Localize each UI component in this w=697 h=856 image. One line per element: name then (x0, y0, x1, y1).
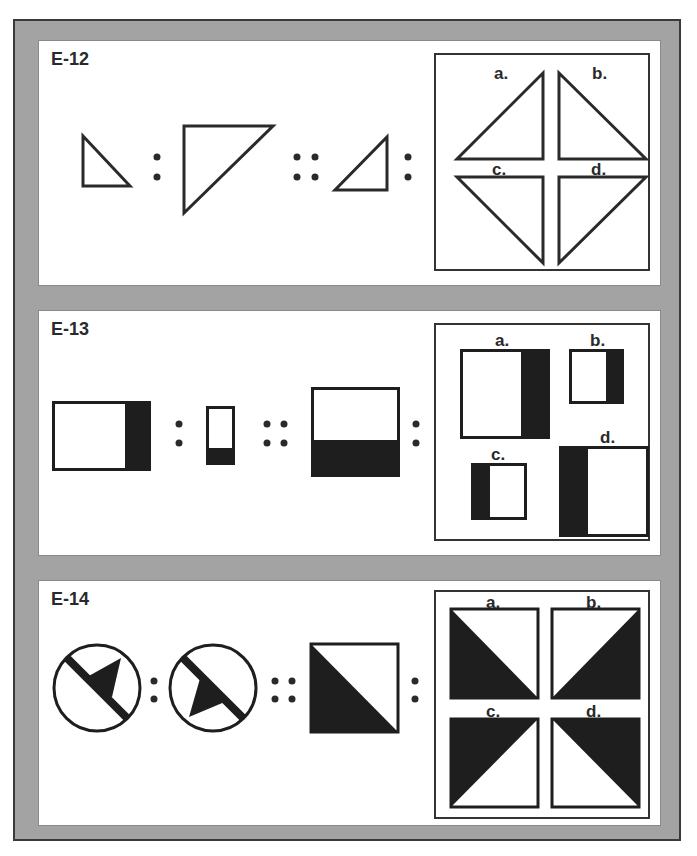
option-b[interactable] (552, 609, 639, 698)
option-a-label: a. (486, 593, 500, 612)
ratio-colon (154, 154, 161, 181)
problem-panel-e13: E-13 (38, 310, 661, 556)
option-a-label: a. (494, 64, 508, 83)
option-d-label: d. (600, 428, 615, 447)
option-b-label: b. (590, 331, 605, 350)
figure-1 (83, 136, 130, 186)
options-box: a. b. c. d. (434, 53, 650, 271)
ratio-colon-end (405, 154, 412, 181)
option-c-label: c. (492, 160, 506, 179)
ratio-colon-end (412, 678, 419, 703)
ratio-double-colon (272, 678, 296, 703)
figure-2 (184, 126, 273, 213)
ratio-double-colon (264, 421, 288, 447)
ratio-colon (151, 678, 158, 703)
option-b-label: b. (586, 593, 601, 612)
figure-3 (311, 387, 400, 477)
option-d[interactable] (559, 177, 646, 263)
option-a[interactable] (460, 349, 550, 439)
figure-3 (311, 644, 398, 732)
figure-1 (52, 401, 151, 471)
option-b[interactable] (559, 73, 646, 159)
option-c[interactable] (471, 463, 527, 520)
option-d[interactable] (552, 719, 639, 807)
option-b[interactable] (569, 349, 624, 404)
options-box: a. b. c. d. (434, 590, 650, 819)
option-b-label: b. (592, 64, 607, 83)
figure-2 (206, 406, 235, 465)
option-c-label: c. (486, 702, 500, 721)
ratio-double-colon (294, 154, 319, 181)
option-c[interactable] (451, 719, 538, 807)
option-a[interactable] (457, 73, 543, 159)
option-d-label: d. (591, 160, 606, 179)
problem-panel-e12: E-12 a. b. c. d. (38, 40, 661, 286)
options-box: a. b. c. d. (434, 323, 650, 541)
option-c[interactable] (457, 177, 543, 263)
figure-4 (335, 137, 387, 190)
option-d[interactable] (559, 446, 649, 537)
option-c-label: c. (491, 445, 505, 464)
ratio-colon (176, 421, 183, 447)
ratio-colon-end (413, 421, 420, 447)
option-d-label: d. (586, 702, 601, 721)
problem-panel-e14: E-14 (38, 580, 661, 826)
option-a[interactable] (451, 609, 538, 698)
figure-2 (165, 640, 261, 736)
option-a-label: a. (495, 331, 509, 350)
figure-1 (49, 640, 145, 736)
